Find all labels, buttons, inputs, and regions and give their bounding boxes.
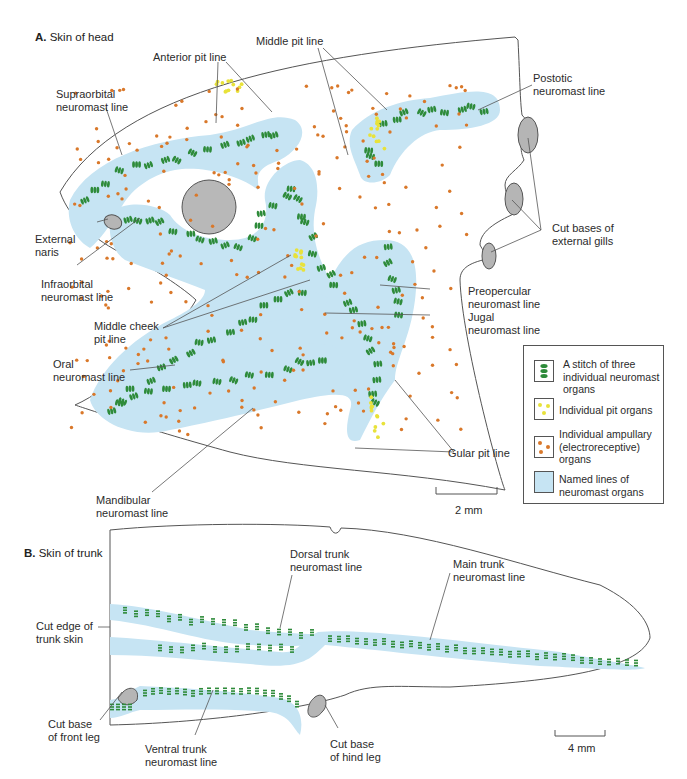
pit-swatch-icon <box>534 398 554 420</box>
label-cut-base-front-leg: Cut base of front leg <box>48 718 100 744</box>
legend-label-pit: Individual pit organs <box>559 404 652 417</box>
head-skin <box>60 37 541 494</box>
legend-label-lines: Named lines of neuromast organs <box>559 473 644 498</box>
panel-a-title: A. Skin of head <box>35 31 114 43</box>
label-external-naris: External naris <box>35 233 75 259</box>
label-main-trunk: Main trunk neuromast line <box>453 558 525 584</box>
panel-a-title-text: Skin of head <box>50 31 114 43</box>
panel-b-letter: B. <box>24 547 36 559</box>
label-ventral-trunk: Ventral trunk neuromast line <box>145 743 217 769</box>
scale-label-2mm: 2 mm <box>455 504 483 517</box>
legend-label-ampullary: Individual ampullary (electroreceptive) … <box>559 428 652 466</box>
label-dorsal-trunk: Dorsal trunk neuromast line <box>290 548 362 574</box>
label-oral: Oral neuromast line <box>53 358 125 384</box>
panel-b-title-text: Skin of trunk <box>39 547 103 559</box>
label-supraorbital: Supraorbital neuromast line <box>56 88 128 114</box>
label-preopercular: Preopercular neuromast line <box>468 285 540 311</box>
panel-a-letter: A. <box>35 31 47 43</box>
label-gular-pit-line: Gular pit line <box>448 447 510 460</box>
label-postotic: Postotic neuromast line <box>533 72 605 98</box>
gill-base-1 <box>518 117 538 153</box>
hind-leg-cut-base <box>308 695 326 717</box>
trunk-skin <box>98 524 650 736</box>
label-jugal: Jugal neuromast line <box>468 311 540 337</box>
label-cut-edge: Cut edge of trunk skin <box>36 620 93 646</box>
label-cut-base-hind-leg: Cut base of hind leg <box>330 738 381 764</box>
gill-base-3 <box>482 243 496 269</box>
label-anterior-pit-line: Anterior pit line <box>153 51 226 64</box>
label-mandibular: Mandibular neuromast line <box>96 494 168 520</box>
scale-bar-2mm <box>436 487 497 494</box>
panel-b-title: B. Skin of trunk <box>24 547 103 559</box>
label-infraorbital: Infraorbital neuromast line <box>41 278 113 304</box>
scale-bar-4mm <box>555 730 605 736</box>
label-middle-cheek-pit-line: Middle cheek pit line <box>94 320 159 346</box>
ampullary-swatch-icon <box>534 436 554 458</box>
scale-label-4mm: 4 mm <box>568 742 596 755</box>
line-swatch-icon <box>534 471 554 493</box>
front-leg-cut-base <box>118 688 138 704</box>
eye-socket <box>182 180 236 234</box>
legend-label-stitch: A stitch of three individual neuromast o… <box>563 358 659 396</box>
lateral-line-diagram: A. Skin of head B. Skin of trunk Anterio… <box>0 0 687 779</box>
label-middle-pit-line: Middle pit line <box>256 35 323 48</box>
stitch-swatch-icon <box>534 360 554 382</box>
gill-base-2 <box>505 183 523 215</box>
trunk-line-bands <box>110 604 645 735</box>
label-cut-bases-gills: Cut bases of external gills <box>552 222 614 248</box>
legend: A stitch of three individual neuromast o… <box>523 345 664 504</box>
